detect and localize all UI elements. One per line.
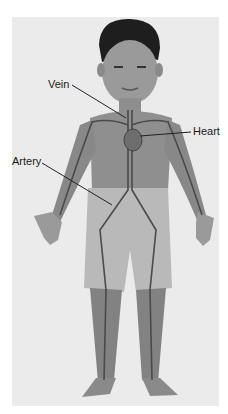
right-foot <box>142 378 178 396</box>
left-foot <box>82 378 116 397</box>
child-figure-illustration <box>0 0 228 414</box>
torso <box>90 111 172 195</box>
right-hand <box>196 212 214 246</box>
shorts <box>84 188 172 292</box>
head <box>102 40 158 104</box>
label-heart: Heart <box>193 126 220 137</box>
heart-organ <box>124 129 142 151</box>
label-vein: Vein <box>48 79 69 90</box>
label-artery: Artery <box>12 156 41 167</box>
